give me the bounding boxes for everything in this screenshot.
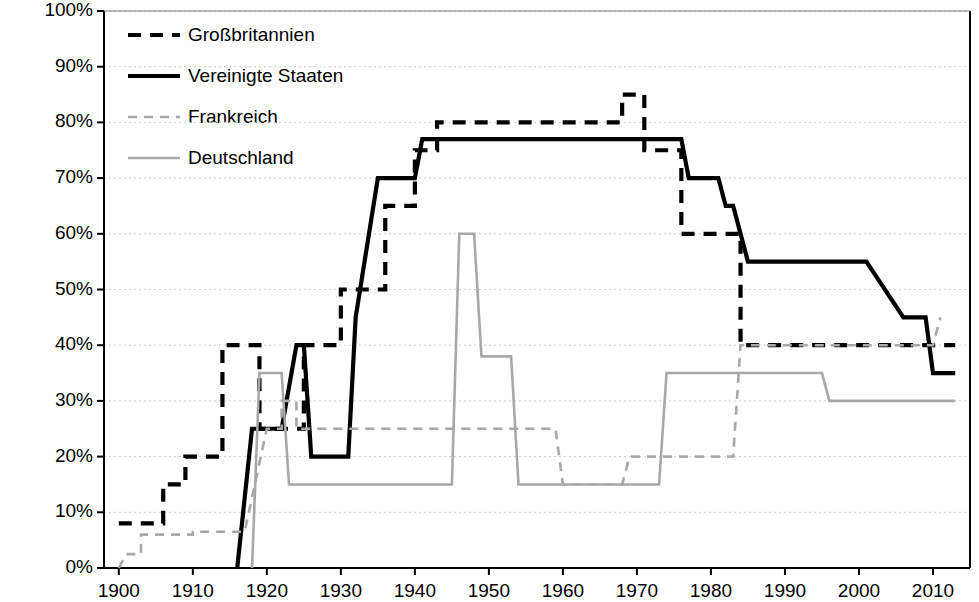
series-line-3 — [252, 234, 955, 568]
axis-ticks — [97, 11, 933, 575]
plot-area — [0, 0, 979, 602]
series-line-0 — [119, 95, 955, 524]
erbschaftssteuer-line-chart: Spitzensteuersatz der Erbschaftssteuer 0… — [0, 0, 979, 602]
series-line-1 — [237, 139, 955, 568]
data-series-layer — [119, 95, 955, 568]
